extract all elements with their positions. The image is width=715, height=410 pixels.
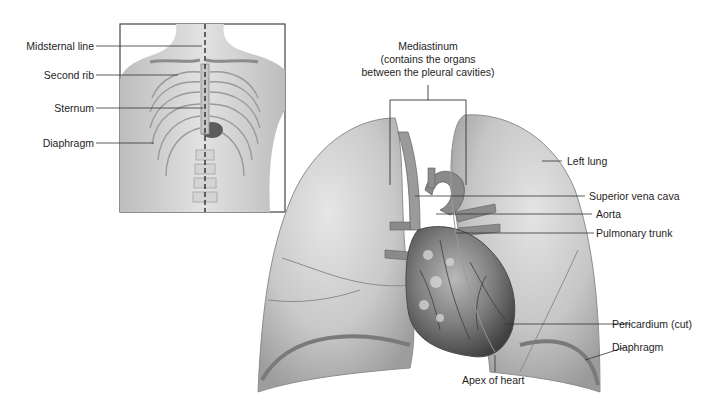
lungs-heart-figure — [258, 85, 631, 392]
label-sternum: Sternum — [54, 102, 94, 114]
label-mediastinum: Mediastinum (contains the organs between… — [350, 40, 506, 79]
label-apex-of-heart: Apex of heart — [462, 374, 524, 386]
label-second-rib: Second rib — [44, 69, 94, 81]
label-superior-vena-cava: Superior vena cava — [589, 190, 679, 202]
mediastinum-title: Mediastinum — [350, 40, 506, 53]
label-diaphragm-main: Diaphragm — [612, 341, 663, 353]
label-pulmonary-trunk: Pulmonary trunk — [596, 227, 672, 239]
label-aorta: Aorta — [596, 208, 621, 220]
mediastinum-desc-2: between the pleural cavities) — [350, 66, 506, 79]
inset-torso-figure — [96, 24, 285, 212]
label-left-lung: Left lung — [567, 155, 607, 167]
mediastinum-desc-1: (contains the organs — [350, 53, 506, 66]
label-pericardium: Pericardium (cut) — [612, 318, 692, 330]
label-midsternal-line: Midsternal line — [26, 40, 94, 52]
label-diaphragm-inset: Diaphragm — [43, 137, 94, 149]
